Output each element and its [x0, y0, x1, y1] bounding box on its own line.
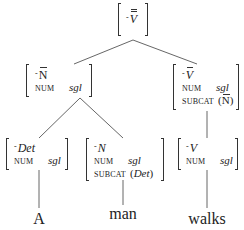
category-label: -V: [126, 13, 147, 25]
feature-attr: SUBCAT: [94, 169, 130, 180]
category-label: -Det: [14, 142, 67, 154]
minus-marker: -: [126, 13, 129, 22]
category-label: -V: [186, 142, 237, 154]
word-a: A: [33, 211, 45, 227]
edge-np-n: [80, 98, 123, 138]
feature-value: (Det): [130, 168, 153, 179]
feature-value: sgl: [216, 82, 229, 93]
feature-row-num: NUM sgl: [94, 155, 163, 167]
feature-row-subcat: SUBCAT (N): [182, 95, 238, 107]
category-symbol: V: [190, 141, 197, 155]
node-n: -N NUM sgl SUBCAT (Det): [86, 138, 164, 181]
feature-value: sgl: [69, 82, 82, 93]
feature-attr: NUM: [182, 83, 212, 94]
category-label: -N: [35, 69, 91, 81]
node-root-v-double-bar: -V: [118, 3, 148, 36]
node-v: -V NUM sgl: [178, 138, 238, 170]
word-walks: walks: [188, 211, 225, 227]
feature-attr: NUM: [14, 156, 44, 167]
category-symbol: V: [186, 69, 193, 81]
category-label: -V: [182, 69, 238, 81]
feature-value: sgl: [48, 155, 61, 166]
edge-root-np: [74, 40, 133, 64]
node-v-bar: -V NUM sgl SUBCAT (N): [173, 64, 239, 110]
edge-np-det: [39, 98, 80, 138]
feature-value: sgl: [220, 155, 233, 166]
category-symbol: Det: [18, 141, 35, 155]
node-det: -Det NUM sgl: [6, 138, 68, 170]
feature-attr: NUM: [35, 83, 65, 94]
feature-value: (N): [218, 95, 233, 106]
category-symbol: N: [98, 141, 106, 155]
feature-row-num: NUM sgl: [14, 155, 67, 167]
minus-marker: -: [14, 142, 17, 151]
feature-attr: NUM: [186, 156, 216, 167]
edge-root-vp: [133, 40, 197, 64]
category-symbol: N: [39, 69, 48, 81]
minus-marker: -: [186, 142, 189, 151]
feature-row-subcat: SUBCAT (Det): [94, 168, 163, 180]
minus-marker: -: [182, 69, 185, 78]
feature-attr: NUM: [94, 156, 124, 167]
feature-row-num: NUM sgl: [182, 82, 238, 94]
feature-attr: SUBCAT: [182, 96, 218, 107]
category-symbol: V: [130, 13, 137, 25]
feature-row-num: NUM sgl: [186, 155, 237, 167]
minus-marker: -: [94, 142, 97, 151]
minus-marker: -: [35, 69, 38, 78]
category-label: -N: [94, 142, 163, 154]
feature-row-num: NUM sgl: [35, 82, 91, 94]
node-n-bar: -N NUM sgl: [26, 64, 92, 97]
word-man: man: [109, 206, 137, 222]
feature-value: sgl: [128, 155, 141, 166]
